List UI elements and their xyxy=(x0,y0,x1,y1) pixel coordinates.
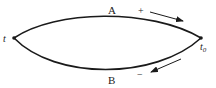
path-b-sign: − xyxy=(137,69,143,80)
arrow-a-icon xyxy=(150,12,183,21)
arrow-b-icon xyxy=(151,59,181,72)
contour-diagram: t t0 A + B − xyxy=(0,0,216,88)
path-b-curve xyxy=(14,38,201,70)
end-label: t0 xyxy=(200,41,207,54)
path-a-label: A xyxy=(108,4,116,16)
path-a-sign: + xyxy=(138,5,144,16)
start-node xyxy=(12,36,16,40)
path-b-label: B xyxy=(108,74,115,86)
start-label: t xyxy=(3,33,6,44)
path-a-curve xyxy=(14,16,201,38)
end-node xyxy=(199,36,203,40)
